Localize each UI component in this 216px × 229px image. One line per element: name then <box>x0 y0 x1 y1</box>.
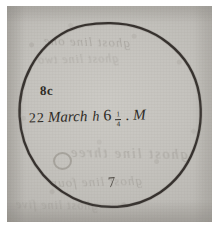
paper-sheet: ghost line one ghost line two ghost line… <box>7 6 212 222</box>
paper-edge-shading <box>7 6 212 222</box>
scan-frame: ghost line one ghost line two ghost line… <box>0 0 216 229</box>
